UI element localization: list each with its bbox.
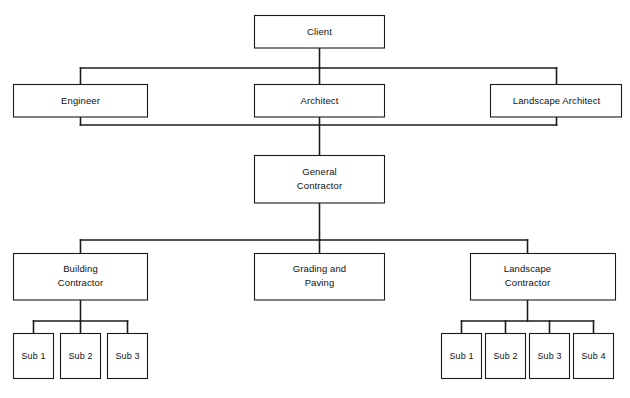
node-engineer-label: Engineer [61, 95, 100, 106]
node-landscape-sub-4[interactable]: Sub 4 [574, 334, 614, 379]
node-landscape-sub-2[interactable]: Sub 2 [486, 334, 526, 379]
node-building-contractor-label-line1: Building [63, 263, 98, 274]
node-building-contractor[interactable]: Building Contractor [14, 254, 148, 301]
node-architect-label: Architect [301, 95, 339, 106]
node-grading-paving[interactable]: Grading and Paving [255, 254, 385, 301]
node-grading-paving-label-line1: Grading and [293, 263, 346, 274]
node-landscape-sub-2-label: Sub 2 [493, 351, 517, 361]
node-landscape-contractor-label-line2: Contractor [505, 277, 550, 288]
node-building-sub-2[interactable]: Sub 2 [61, 334, 101, 379]
node-landscape-sub-3[interactable]: Sub 3 [530, 334, 570, 379]
node-landscape-sub-4-label: Sub 4 [581, 351, 605, 361]
node-landscape-architect-label: Landscape Architect [513, 95, 601, 106]
node-general-contractor-label-line1: General [302, 166, 337, 177]
node-landscape-contractor-label-line1: Landscape [504, 263, 551, 274]
node-building-sub-3-label: Sub 3 [115, 351, 139, 361]
node-client-label: Client [307, 26, 332, 37]
node-landscape-sub-1-label: Sub 1 [449, 351, 473, 361]
node-landscape-contractor[interactable]: Landscape Contractor [471, 254, 616, 301]
node-building-sub-2-label: Sub 2 [68, 351, 92, 361]
node-building-sub-3[interactable]: Sub 3 [108, 334, 148, 379]
node-grading-paving-label-line2: Paving [305, 277, 335, 288]
node-landscape-sub-3-label: Sub 3 [537, 351, 561, 361]
node-general-contractor-label-line2: Contractor [297, 180, 342, 191]
node-building-contractor-label-line2: Contractor [58, 277, 103, 288]
node-landscape-architect[interactable]: Landscape Architect [491, 85, 622, 118]
org-chart-diagram: Client Engineer Architect Landscape Arch… [0, 0, 630, 398]
node-general-contractor[interactable]: General Contractor [255, 156, 385, 204]
node-landscape-sub-1[interactable]: Sub 1 [442, 334, 482, 379]
node-client[interactable]: Client [255, 16, 385, 49]
node-engineer[interactable]: Engineer [14, 85, 148, 118]
node-architect[interactable]: Architect [255, 85, 385, 118]
org-chart-canvas: Client Engineer Architect Landscape Arch… [0, 0, 630, 398]
node-building-sub-1[interactable]: Sub 1 [14, 334, 54, 379]
node-building-sub-1-label: Sub 1 [21, 351, 45, 361]
